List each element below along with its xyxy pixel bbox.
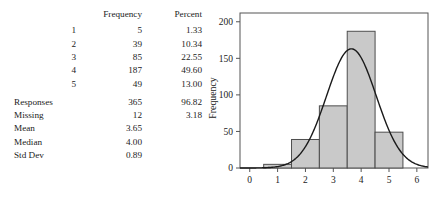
row-frequency: 12: [80, 109, 144, 122]
table-row: Mean 3.65: [14, 122, 202, 135]
table-header: Frequency Percent: [14, 8, 202, 24]
y-tick-label: 100: [219, 90, 234, 100]
row-percent: [144, 149, 202, 162]
y-axis-title: Frequency: [207, 77, 218, 118]
y-tick-label: 150: [219, 54, 234, 64]
x-axis-tick-labels: 0123456: [247, 175, 419, 185]
column-header-frequency: Frequency: [80, 8, 144, 24]
row-frequency: 85: [80, 51, 144, 64]
row-percent: [144, 136, 202, 149]
row-frequency: 0.89: [80, 149, 144, 162]
x-tick-label: 3: [331, 175, 336, 185]
row-frequency: 49: [80, 77, 144, 90]
table-row: 1 5 1.33: [14, 24, 202, 37]
table-row: 2 39 10.34: [14, 38, 202, 51]
histogram-bars: [264, 31, 403, 168]
row-label: 5: [14, 77, 80, 90]
table-row: Std Dev 0.89: [14, 149, 202, 162]
row-label: 4: [14, 64, 80, 77]
row-label: Std Dev: [14, 149, 80, 162]
y-axis-tick-labels: 050100150200: [219, 17, 234, 173]
x-tick-label: 1: [275, 175, 280, 185]
row-label: Median: [14, 136, 80, 149]
x-tick-label: 5: [387, 175, 392, 185]
x-tick-label: 2: [303, 175, 308, 185]
histogram-bar: [319, 106, 347, 168]
x-tick-label: 0: [247, 175, 252, 185]
row-percent: 10.34: [144, 38, 202, 51]
row-percent: 96.82: [144, 96, 202, 109]
row-percent: 1.33: [144, 24, 202, 37]
row-percent: [144, 122, 202, 135]
x-tick-label: 4: [359, 175, 364, 185]
histogram-bar: [375, 132, 403, 168]
table-header-row: Frequency Percent: [14, 8, 202, 24]
column-header-percent: Percent: [144, 8, 202, 24]
row-label: Mean: [14, 122, 80, 135]
row-frequency: 5: [80, 24, 144, 37]
row-label: 1: [14, 24, 80, 37]
row-label: Missing: [14, 109, 80, 122]
y-axis-title-group: Frequency: [207, 77, 218, 118]
row-frequency: 4.00: [80, 136, 144, 149]
table-body: 1 5 1.33 2 39 10.34 3 85 22.55 4 187 49.…: [14, 24, 202, 162]
frequency-table-panel: Frequency Percent 1 5 1.33 2 39 10.34 3 …: [0, 0, 205, 201]
row-frequency: 3.65: [80, 122, 144, 135]
row-percent: 22.55: [144, 51, 202, 64]
y-tick-label: 50: [224, 127, 234, 137]
histogram-panel: Frequency 050100150200 0123456: [205, 0, 441, 201]
table-row: Responses 365 96.82: [14, 96, 202, 109]
row-label: Responses: [14, 96, 80, 109]
column-header-blank: [14, 8, 80, 24]
x-tick-label: 6: [414, 175, 419, 185]
row-frequency: 365: [80, 96, 144, 109]
table-row: 3 85 22.55: [14, 51, 202, 64]
row-percent: 49.60: [144, 64, 202, 77]
row-percent: 13.00: [144, 77, 202, 90]
table-row: 4 187 49.60: [14, 64, 202, 77]
row-label: 2: [14, 38, 80, 51]
histogram-svg: Frequency 050100150200 0123456: [205, 0, 441, 201]
table-row: 5 49 13.00: [14, 77, 202, 90]
y-tick-label: 200: [219, 17, 234, 27]
table-row: Missing 12 3.18: [14, 109, 202, 122]
row-percent: 3.18: [144, 109, 202, 122]
table-row: Median 4.00: [14, 136, 202, 149]
row-frequency: 187: [80, 64, 144, 77]
histogram-bar: [292, 139, 320, 168]
y-tick-label: 0: [228, 163, 233, 173]
row-label: 3: [14, 51, 80, 64]
row-frequency: 39: [80, 38, 144, 51]
frequency-table: Frequency Percent 1 5 1.33 2 39 10.34 3 …: [14, 8, 202, 162]
histogram-bar: [347, 31, 375, 168]
